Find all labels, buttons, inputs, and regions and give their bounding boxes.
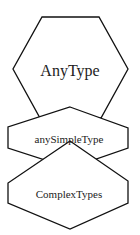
type-hierarchy-diagram: AnyType anySimpleType ComplexTypes [0,0,140,235]
anytype-label: AnyType [40,62,99,80]
anysimpletype-label: anySimpleType [35,133,104,145]
complextypes-label: ComplexTypes [36,188,102,200]
